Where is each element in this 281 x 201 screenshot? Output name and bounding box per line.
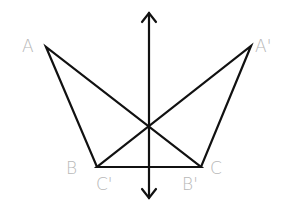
label-a: A	[22, 36, 34, 56]
label-c: C	[210, 158, 222, 178]
triangle-a-prime-b-prime-c-prime	[97, 46, 251, 167]
label-b: B	[66, 158, 77, 178]
reflection-diagram: A A' B C' B' C	[0, 0, 281, 201]
triangle-abc	[46, 47, 201, 167]
label-c-prime: C'	[96, 174, 113, 194]
label-b-prime: B'	[182, 174, 198, 194]
label-a-prime: A'	[255, 36, 271, 56]
